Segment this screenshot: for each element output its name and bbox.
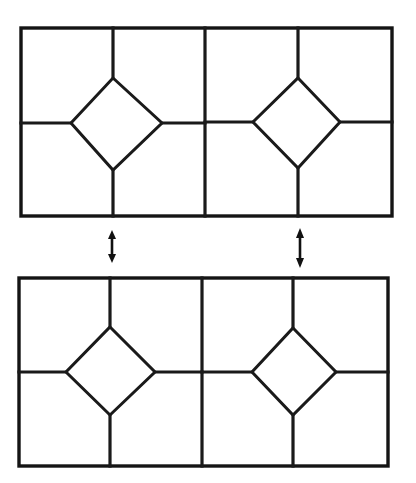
top-right-cell <box>205 28 392 216</box>
tiling-diagram <box>0 0 416 483</box>
right-arrow-head-up <box>296 228 304 238</box>
bottom-left-cell <box>19 278 202 466</box>
figure-root <box>0 0 416 483</box>
top-right-cell-diamond <box>253 78 340 168</box>
bottom-left-cell-diamond <box>66 327 155 415</box>
bottom-right-cell <box>202 278 388 466</box>
bottom-right-cell-diamond <box>252 328 336 415</box>
top-left-cell <box>21 28 205 216</box>
left-arrow-head-down <box>108 254 116 263</box>
right-arrow <box>296 228 304 268</box>
bottom-panel <box>19 278 388 466</box>
left-arrow <box>108 230 116 263</box>
top-panel <box>21 28 392 216</box>
left-arrow-head-up <box>108 230 116 239</box>
right-arrow-head-down <box>296 258 304 268</box>
top-left-cell-diamond <box>71 78 162 170</box>
